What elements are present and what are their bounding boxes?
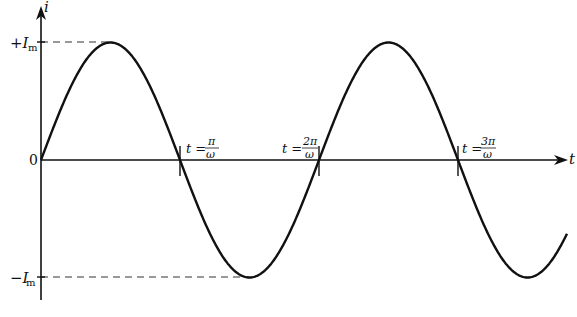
x-axis-label: t <box>569 150 576 168</box>
svg-text:ω: ω <box>206 148 215 161</box>
svg-text:ω: ω <box>483 148 492 161</box>
origin-label: 0 <box>29 152 38 168</box>
sine-wave-diagram: i t 0 +I m −I m t = π ω t = 2π ω t = 3π … <box>0 0 577 317</box>
svg-text:t =: t = <box>186 141 206 156</box>
neg-peak-label: −I m <box>10 269 36 288</box>
pos-peak-label: +I m <box>10 34 38 53</box>
svg-text:m: m <box>26 277 36 288</box>
svg-text:ω: ω <box>305 148 314 161</box>
svg-text:t =: t = <box>462 141 482 156</box>
svg-text:t =: t = <box>282 141 302 156</box>
marker-3pi-label: t = 3π ω <box>462 135 496 161</box>
svg-text:π: π <box>207 135 216 148</box>
y-axis-label: i <box>44 0 49 16</box>
marker-2pi-label: t = 2π ω <box>282 135 318 161</box>
marker-pi-label: t = π ω <box>186 135 219 161</box>
svg-text:2π: 2π <box>302 135 318 148</box>
svg-text:3π: 3π <box>481 135 496 148</box>
svg-text:+I: +I <box>10 34 30 52</box>
svg-text:m: m <box>28 42 38 53</box>
